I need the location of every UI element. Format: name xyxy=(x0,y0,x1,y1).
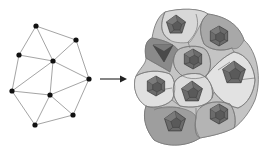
graph-edge xyxy=(35,95,50,125)
graph-edge xyxy=(12,55,19,91)
graph-node xyxy=(50,58,55,63)
graph-edge xyxy=(19,55,53,61)
arrow-right-icon xyxy=(100,76,127,83)
graph-edge xyxy=(50,95,73,115)
graph-node xyxy=(9,88,14,93)
graph-edge xyxy=(50,61,53,95)
graph-edge xyxy=(12,91,50,95)
cell-tessellation xyxy=(134,9,258,145)
graph-node xyxy=(70,112,75,117)
graph-edge xyxy=(53,40,76,61)
graph-node xyxy=(32,122,37,127)
graph-node xyxy=(16,52,21,57)
graph-node xyxy=(47,92,52,97)
graph-edge xyxy=(12,91,35,125)
graph-edge xyxy=(19,26,36,55)
graph-node xyxy=(33,23,38,28)
diagram-canvas xyxy=(0,0,262,154)
graph-node xyxy=(73,37,78,42)
graph-edge xyxy=(35,115,73,125)
point-graph xyxy=(9,23,91,127)
graph-edge xyxy=(12,61,53,91)
graph-node xyxy=(86,76,91,81)
